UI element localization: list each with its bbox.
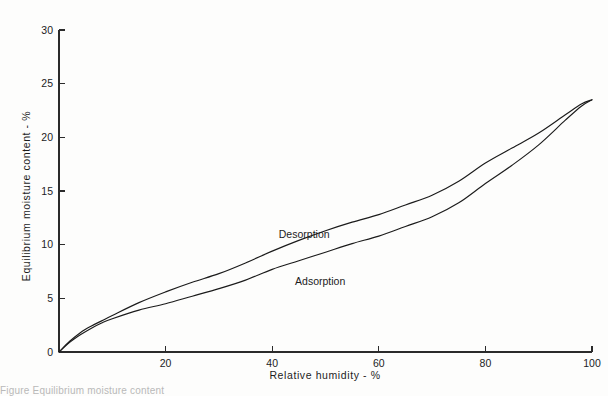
figure-caption-partial: Figure Equilibrium moisture content xyxy=(0,385,608,396)
y-tick-label: 20 xyxy=(41,131,53,143)
figure-root: 051015202530 20406080100 DesorptionAdsor… xyxy=(0,0,608,396)
data-curves-group xyxy=(59,100,592,352)
y-tick-label: 5 xyxy=(47,292,53,304)
y-tick-label: 25 xyxy=(41,77,53,89)
y-axis-title: Equilibrium moisture content - % xyxy=(20,111,32,281)
curve-adsorption xyxy=(59,100,592,352)
series-label-desorption: Desorption xyxy=(279,228,330,240)
series-label-adsorption: Adsorption xyxy=(295,275,345,287)
x-tick-label: 40 xyxy=(266,357,278,369)
y-tick-label: 15 xyxy=(41,185,53,197)
x-tick-label: 60 xyxy=(373,357,385,369)
axes-group xyxy=(59,30,592,352)
curve-annotations-group: DesorptionAdsorption xyxy=(279,228,346,287)
equilibrium-moisture-content-chart: 051015202530 20406080100 DesorptionAdsor… xyxy=(0,0,608,396)
y-tick-label: 0 xyxy=(47,346,53,358)
y-axis-ticks: 051015202530 xyxy=(41,24,65,358)
x-tick-label: 20 xyxy=(160,357,172,369)
y-tick-label: 10 xyxy=(41,238,53,250)
x-axis-ticks: 20406080100 xyxy=(160,346,601,369)
x-axis-title: Relative humidity - % xyxy=(269,369,380,381)
y-tick-label: 30 xyxy=(41,24,53,36)
x-tick-label: 80 xyxy=(480,357,492,369)
x-tick-label: 100 xyxy=(583,357,601,369)
curve-desorption xyxy=(59,100,592,352)
